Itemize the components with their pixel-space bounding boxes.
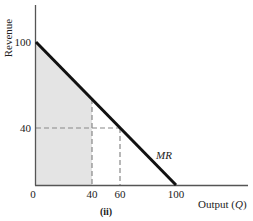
figure-caption: (ii)	[100, 206, 112, 218]
x-tick-0: 0	[30, 188, 36, 200]
y-tick-40: 40	[20, 122, 32, 134]
x-axis-label: Output (Q)	[198, 198, 247, 211]
x-axis-label-text: Output (	[198, 198, 235, 211]
shaded-area	[36, 42, 92, 185]
x-axis-label-var: Q	[235, 198, 243, 210]
mr-label: MR	[155, 149, 172, 161]
x-axis-label-close: )	[243, 198, 247, 211]
y-tick-100: 100	[15, 36, 32, 48]
x-tick-60: 60	[115, 188, 127, 200]
x-tick-40: 40	[87, 188, 99, 200]
y-axis-label: Revenue	[2, 19, 14, 58]
mr-chart: Revenue 100 40 0 40 60 100 Output (Q) MR…	[0, 0, 253, 221]
x-tick-100: 100	[168, 188, 185, 200]
